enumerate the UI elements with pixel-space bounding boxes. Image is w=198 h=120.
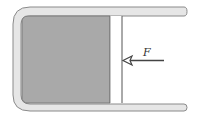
gas-region: [22, 16, 110, 103]
piston-cylinder-diagram: F: [0, 0, 198, 120]
force-label: F: [142, 46, 151, 59]
piston: [110, 16, 122, 103]
force-arrow-head-icon: [123, 56, 132, 65]
